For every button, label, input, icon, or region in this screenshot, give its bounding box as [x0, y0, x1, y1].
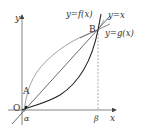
origin-label: O [13, 103, 20, 113]
curve-g-label: y=g(x) [104, 28, 134, 38]
y-axis-label: y [14, 13, 21, 23]
point-origin [25, 106, 28, 109]
beta-tick-label: β [93, 114, 99, 123]
point-b-label: B [89, 24, 96, 34]
function-graph: y x O A B α β y=f(x) y=x y=g(x) [0, 0, 151, 130]
curve-f-label: y=f(x) [65, 9, 93, 19]
x-axis-label: x [110, 113, 115, 123]
alpha-tick-label: α [24, 114, 30, 123]
point-a-label: A [22, 86, 30, 96]
line-identity-label: y=x [107, 10, 125, 20]
